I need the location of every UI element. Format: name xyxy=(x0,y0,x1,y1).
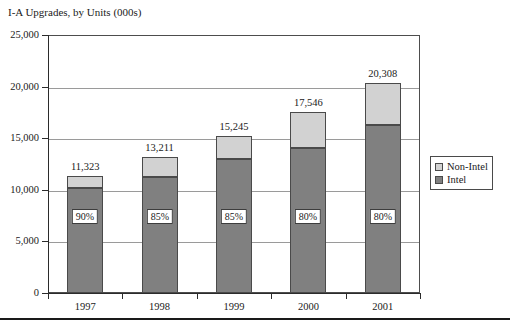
y-tick-mark-15000 xyxy=(42,138,48,139)
bar-1998[interactable]: 85% xyxy=(142,157,178,293)
legend-label-non-intel: Non-Intel xyxy=(447,161,488,172)
legend-swatch-non-intel xyxy=(435,163,443,171)
bar-total-label-2000: 17,546 xyxy=(273,97,343,108)
chart-legend: Non-Intel Intel xyxy=(430,156,493,190)
bar-segment-non-intel-2001[interactable] xyxy=(365,83,401,125)
bar-segment-non-intel-1999[interactable] xyxy=(216,136,252,160)
y-tick-mark-10000 xyxy=(42,190,48,191)
x-tick-mark-2 xyxy=(197,294,198,299)
bar-share-label-1997: 90% xyxy=(72,209,98,224)
y-axis-label-15000: 15,000 xyxy=(0,133,39,144)
legend-item-non-intel[interactable]: Non-Intel xyxy=(435,160,488,173)
bar-segment-intel-1999[interactable] xyxy=(216,159,252,293)
bottom-divider xyxy=(0,318,510,320)
y-axis-label-5000: 5,000 xyxy=(0,236,39,247)
legend-swatch-intel xyxy=(435,176,443,184)
x-axis-label-2001: 2001 xyxy=(353,301,413,312)
x-axis-label-1997: 1997 xyxy=(55,301,115,312)
bar-share-label-1998: 85% xyxy=(147,209,173,224)
legend-label-intel: Intel xyxy=(447,174,466,185)
bar-total-label-1998: 13,211 xyxy=(125,142,195,153)
bar-total-label-1999: 15,245 xyxy=(199,121,269,132)
gridline-20000 xyxy=(49,88,419,89)
bar-share-label-2001: 80% xyxy=(370,209,396,224)
x-axis-line xyxy=(48,293,421,294)
x-tick-mark-5 xyxy=(420,294,421,299)
bar-segment-non-intel-1998[interactable] xyxy=(142,157,178,177)
bar-segment-non-intel-1997[interactable] xyxy=(67,176,103,188)
y-axis-label-20000: 20,000 xyxy=(0,82,39,93)
x-tick-mark-0 xyxy=(48,294,49,299)
bar-1999[interactable]: 85% xyxy=(216,136,252,293)
y-axis-label-25000: 25,000 xyxy=(0,30,39,41)
bar-segment-non-intel-2000[interactable] xyxy=(290,112,326,148)
x-axis-label-1998: 1998 xyxy=(130,301,190,312)
x-tick-mark-3 xyxy=(271,294,272,299)
x-tick-mark-1 xyxy=(122,294,123,299)
x-tick-mark-4 xyxy=(346,294,347,299)
bar-share-label-1999: 85% xyxy=(221,209,247,224)
bar-share-label-2000: 80% xyxy=(295,209,321,224)
bar-2000[interactable]: 80% xyxy=(290,112,326,293)
y-tick-mark-25000 xyxy=(42,35,48,36)
y-tick-mark-5000 xyxy=(42,241,48,242)
bar-segment-intel-1997[interactable] xyxy=(67,188,103,293)
y-axis-label-0: 0 xyxy=(0,288,39,299)
bar-1997[interactable]: 90% xyxy=(67,176,103,293)
bar-total-label-1997: 11,323 xyxy=(50,161,120,172)
bar-total-label-2001: 20,308 xyxy=(348,68,418,79)
y-axis-label-10000: 10,000 xyxy=(0,185,39,196)
x-axis-label-1999: 1999 xyxy=(204,301,264,312)
chart-title: I-A Upgrades, by Units (000s) xyxy=(8,6,142,19)
legend-item-intel[interactable]: Intel xyxy=(435,173,488,186)
x-axis-label-2000: 2000 xyxy=(278,301,338,312)
y-axis-line xyxy=(48,35,49,294)
bar-2001[interactable]: 80% xyxy=(365,83,401,293)
y-tick-mark-20000 xyxy=(42,87,48,88)
bar-segment-intel-1998[interactable] xyxy=(142,177,178,293)
